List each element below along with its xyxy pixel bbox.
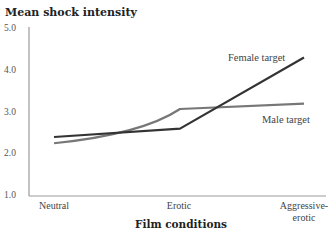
line-chart: Mean shock intensity 5.0 4.0 3.0 2.0 1.0…	[0, 0, 336, 237]
female-target-line	[54, 58, 304, 137]
male-target-label: Male target	[262, 114, 310, 125]
x-axis-title: Film conditions	[0, 218, 336, 230]
x-tick-erotic: Erotic	[159, 200, 199, 212]
x-tick-neutral-label: Neutral	[39, 200, 69, 211]
x-tick-neutral: Neutral	[34, 200, 74, 212]
x-tick-aggressive-label-line1: Aggressive-	[273, 200, 335, 212]
female-target-label: Female target	[228, 52, 285, 63]
x-tick-erotic-label: Erotic	[167, 200, 191, 211]
